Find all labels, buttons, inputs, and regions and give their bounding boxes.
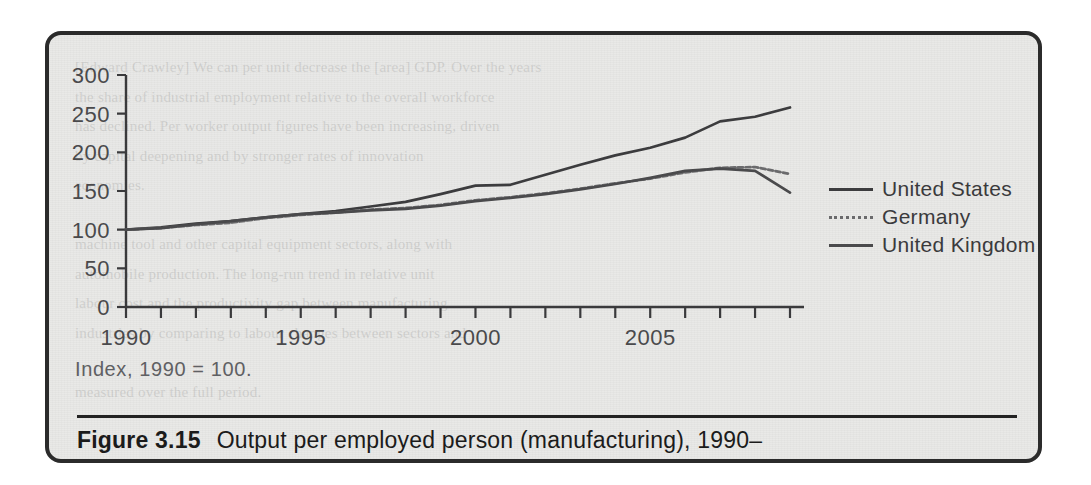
series-line	[126, 107, 790, 229]
chart-legend: United States Germany United Kingdom	[829, 175, 1036, 259]
legend-label: United Kingdom	[882, 233, 1036, 257]
index-note: Index, 1990 = 100.	[75, 358, 252, 381]
y-axis-tick-label: 250	[72, 102, 110, 127]
legend-swatch-line-icon	[829, 216, 873, 219]
figure-caption-text: Output per employed person (manufacturin…	[217, 427, 763, 453]
y-axis: 050100150200250300	[72, 63, 126, 320]
y-axis-tick-label: 150	[72, 179, 110, 204]
legend-item-united-states: United States	[829, 175, 1036, 203]
x-axis-tick-label: 1990	[101, 325, 152, 350]
legend-item-germany: Germany	[829, 203, 1036, 231]
y-axis-tick-label: 50	[85, 256, 110, 281]
y-axis-tick-label: 300	[72, 63, 110, 88]
y-axis-tick-label: 200	[72, 140, 110, 165]
x-axis-tick-label: 2000	[450, 325, 501, 350]
legend-item-united-kingdom: United Kingdom	[829, 231, 1036, 259]
caption-divider	[77, 415, 1017, 418]
figure-number: Figure 3.15	[77, 427, 201, 453]
x-axis-tick-label: 1995	[275, 325, 326, 350]
data-series-group	[126, 107, 790, 229]
x-axis: 1990199520002005	[101, 307, 804, 350]
legend-label: Germany	[882, 205, 970, 229]
figure-caption: Figure 3.15Output per employed person (m…	[77, 427, 762, 454]
legend-swatch-line-icon	[829, 188, 873, 191]
figure-screenshot: [Edward Crawley] We can per unit decreas…	[0, 0, 1091, 485]
x-axis-tick-label: 2005	[625, 325, 676, 350]
y-axis-tick-label: 0	[97, 295, 110, 320]
figure-panel: [Edward Crawley] We can per unit decreas…	[45, 31, 1042, 463]
legend-swatch-line-icon	[829, 244, 873, 247]
y-axis-tick-label: 100	[72, 218, 110, 243]
series-line	[126, 169, 790, 230]
legend-label: United States	[882, 177, 1012, 201]
